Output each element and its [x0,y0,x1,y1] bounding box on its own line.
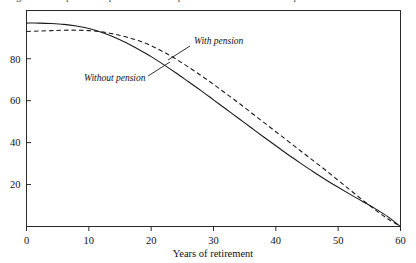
x-tick-label: 0 [24,235,29,246]
x-tick-label: 30 [208,235,219,246]
annotation-without-pension: Without pension [84,73,146,83]
y-tick-label: 80 [10,54,21,65]
series-layer [27,23,401,226]
figure-container: Figure 1. Comparison of pension and non-… [0,0,416,263]
y-tick-label: 20 [10,179,21,190]
x-axis-title: Years of retirement [173,248,254,259]
x-tick-label: 50 [333,235,344,246]
y-tick-label: 60 [10,95,21,106]
chart-plot: 0102030405060 20406080 With pension With… [0,0,416,263]
y-axis-ticks [27,59,32,185]
x-tick-label: 40 [271,235,282,246]
annotation-with-pension: With pension [194,36,244,46]
x-axis-tick-labels: 0102030405060 [24,235,406,246]
series-line-with-pension [27,30,401,226]
leader-line-with-pension [168,46,190,60]
series-line-without-pension [27,23,401,226]
x-axis-ticks [27,227,401,232]
leader-line-without-pension [148,62,170,76]
x-tick-label: 10 [84,235,95,246]
annotation-layer: With pension Without pension [84,36,244,83]
y-axis-tick-labels: 20406080 [10,54,21,191]
x-tick-label: 20 [146,235,157,246]
y-tick-label: 40 [10,137,21,148]
x-tick-label: 60 [395,235,406,246]
